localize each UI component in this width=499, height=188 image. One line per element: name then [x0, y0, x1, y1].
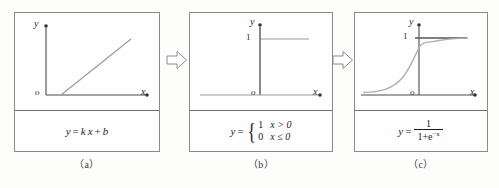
panel-b-case1-value: 1	[258, 119, 263, 132]
panel-c-graph: y x o 1	[355, 13, 487, 111]
panel-a-x-axis-label: x	[141, 86, 145, 97]
panel-b-case-row-1: 1 x > 0	[258, 119, 291, 132]
panel-c-formula-area: y = 1 1+e−x	[355, 111, 487, 151]
panel-b-cases: 1 x > 0 0 x ≤ 0	[258, 119, 291, 144]
panel-b-caption: （b）	[189, 156, 333, 171]
panel-a-formula-k: k	[81, 125, 86, 137]
panel-a-container: y x o y = kx +	[14, 12, 160, 171]
panel-c-den-exponent: −x	[432, 130, 439, 137]
panel-c-y-axis-label: y	[409, 16, 413, 27]
panel-b-container: y x o 1 y =	[189, 12, 333, 171]
panel-c-x-axis-label: x	[470, 86, 474, 97]
panel-b-formula-area: y = { 1 x > 0 0 x ≤ 0	[190, 111, 332, 151]
panel-b-origin-label: o	[251, 87, 256, 97]
panel-b-y-axis-label: y	[250, 16, 254, 27]
panel-b: y x o 1 y =	[189, 12, 333, 152]
panel-b-case2-value: 0	[258, 131, 263, 144]
panel-a-caption: （a）	[14, 156, 160, 171]
right-arrow-icon	[166, 50, 188, 70]
panel-a-formula-eq: =	[73, 125, 79, 137]
panel-a-origin-label: o	[35, 87, 40, 97]
panel-c-formula: y = 1 1+e−x	[398, 119, 443, 143]
panel-b-tick-label-1: 1	[246, 32, 251, 42]
panel-a-formula-b: b	[103, 125, 109, 137]
panel-b-piecewise: { 1 x > 0 0 x ≤ 0	[246, 119, 292, 144]
panel-b-x-axis-label: x	[313, 86, 317, 97]
panel-b-formula-lhs: y	[231, 125, 236, 137]
panel-a-formula-lhs: y	[66, 125, 71, 137]
panel-b-case1-cond: x > 0	[270, 119, 291, 132]
panel-c-origin-label: o	[410, 87, 415, 97]
panel-c-fraction: 1 1+e−x	[414, 119, 442, 143]
panel-c-formula-eq: =	[405, 125, 411, 137]
arrow-1-container	[166, 50, 188, 70]
activation-functions-figure: y x o y = kx +	[0, 0, 499, 188]
panel-c-plot	[355, 13, 487, 111]
panel-b-graph: y x o 1	[190, 13, 332, 111]
panel-c: y x o 1 y	[354, 12, 488, 152]
panel-b-plot	[190, 13, 332, 111]
panel-b-case2-cond: x ≤ 0	[270, 131, 290, 144]
panel-a-formula-plus: +	[95, 125, 101, 137]
panel-c-caption: （c）	[354, 156, 488, 171]
piecewise-brace-icon: {	[247, 121, 255, 141]
panel-a-graph: y x o	[15, 13, 159, 111]
panel-c-formula-lhs: y	[398, 125, 403, 137]
panel-a-formula-x: x	[88, 125, 93, 137]
panel-c-denominator: 1+e−x	[414, 129, 442, 143]
panel-c-tick-label-1: 1	[403, 31, 408, 41]
panel-b-case-row-2: 0 x ≤ 0	[258, 131, 291, 144]
panel-c-numerator: 1	[423, 119, 434, 130]
panel-a-formula: y = kx + b	[66, 125, 109, 137]
right-arrow-icon	[332, 50, 354, 70]
arrow-2-container	[332, 50, 354, 70]
panel-b-formula-eq: =	[237, 125, 243, 137]
panel-a: y x o y = kx +	[14, 12, 160, 152]
panel-a-formula-area: y = kx + b	[15, 111, 159, 151]
panel-c-container: y x o 1 y	[354, 12, 488, 171]
panel-a-y-axis-label: y	[34, 18, 38, 29]
panel-b-formula: y = { 1 x > 0 0 x ≤ 0	[231, 119, 292, 144]
